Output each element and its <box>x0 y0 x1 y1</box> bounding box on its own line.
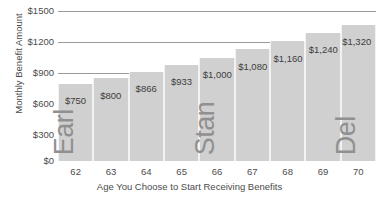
plot-area: Earl Stan Del <box>58 6 376 161</box>
y-tick-label-600: $600 <box>8 98 54 109</box>
bar-annotation-wrap-70: Del <box>342 89 375 155</box>
y-tick-label-0: $0 <box>8 155 54 166</box>
y-tick-label-1500: $1500 <box>8 5 54 16</box>
value-label-70: $1,320 <box>336 36 378 47</box>
x-tick-label-64: 64 <box>129 166 164 177</box>
gridline-1500 <box>58 11 376 12</box>
bar-annotation-stan: Stan <box>194 101 217 155</box>
x-axis-title: Age You Choose to Start Receiving Benefi… <box>0 181 379 192</box>
value-label-63: $800 <box>93 90 128 101</box>
value-label-65: $933 <box>164 76 199 87</box>
value-label-62: $750 <box>58 95 93 106</box>
x-tick-label-68: 68 <box>270 166 305 177</box>
bar-annotation-del: Del <box>335 116 358 155</box>
bar-chart: Monthly Benefit Amount $1500 $1200 $900 … <box>0 0 379 211</box>
x-tick-label-62: 62 <box>58 166 93 177</box>
x-tick-label-70: 70 <box>341 166 376 177</box>
bar-annotation-earl: Earl <box>52 109 75 155</box>
y-tick-label-1200: $1200 <box>8 36 54 47</box>
x-tick-label-65: 65 <box>164 166 199 177</box>
bar-annotation-wrap-66: Stan <box>200 89 233 155</box>
y-tick-label-300: $300 <box>8 129 54 140</box>
value-label-64: $866 <box>129 83 164 94</box>
x-tick-label-63: 63 <box>93 166 128 177</box>
x-tick-label-67: 67 <box>235 166 270 177</box>
x-tick-label-66: 66 <box>199 166 234 177</box>
y-tick-label-900: $900 <box>8 67 54 78</box>
x-tick-label-69: 69 <box>305 166 340 177</box>
